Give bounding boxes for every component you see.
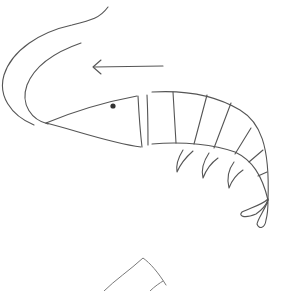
shrimp-body [147,92,268,200]
shrimp-legs [177,150,243,188]
partial-shape [104,258,166,291]
antenna-outer [2,7,108,125]
antenna-inner [25,43,81,124]
arrow-left-icon [93,60,163,74]
eye-icon [110,103,115,108]
shrimp-tail [241,199,268,227]
shrimp-head [46,96,142,147]
shrimp-drawing [0,0,286,291]
